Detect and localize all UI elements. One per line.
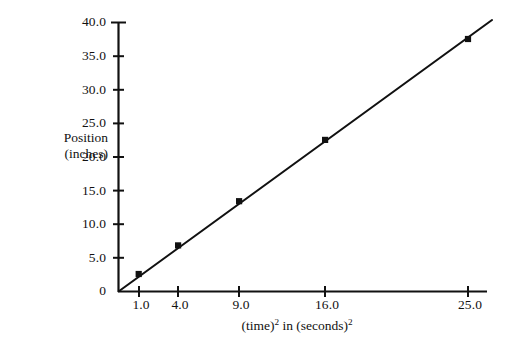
- x-axis-title: (time)2 in (seconds)2: [241, 318, 352, 334]
- y-tick-label-25: 25.0: [62, 115, 106, 130]
- y-axis-title-line-2: (inches): [16, 146, 108, 162]
- data-point: [236, 198, 242, 204]
- y-tick-label-0: 0: [62, 283, 106, 298]
- x-axis-title-part-2: in (seconds): [279, 318, 348, 333]
- data-point: [136, 271, 142, 277]
- x-axis-title-exponent-2: 2: [348, 317, 353, 327]
- x-tick-label-1: 1.0: [132, 297, 149, 312]
- x-tick-label-16: 16.0: [315, 297, 339, 312]
- y-axis-title: Position (inches): [16, 130, 108, 162]
- data-point: [465, 36, 471, 42]
- x-axis-title-part-1: (time): [241, 318, 274, 333]
- data-point: [322, 137, 328, 143]
- y-tick-label-30: 30.0: [62, 82, 106, 97]
- x-tick-label-4: 4.0: [171, 297, 188, 312]
- y-tick-label-35: 35.0: [62, 48, 106, 63]
- y-tick-label-15: 15.0: [62, 183, 106, 198]
- y-axis-title-line-1: Position: [16, 130, 108, 146]
- y-tick-label-5: 5.0: [62, 250, 106, 265]
- position-vs-time-squared-chart: 40.0 35.0 30.0 25.0 20.0 15.0 10.0 5.0 0…: [0, 0, 509, 352]
- x-tick-label-9: 9.0: [232, 297, 249, 312]
- best-fit-line: [119, 20, 493, 292]
- data-point: [175, 242, 181, 248]
- y-tick-label-40: 40.0: [62, 14, 106, 29]
- x-tick-label-25: 25.0: [458, 297, 482, 312]
- y-tick-label-10: 10.0: [62, 216, 106, 231]
